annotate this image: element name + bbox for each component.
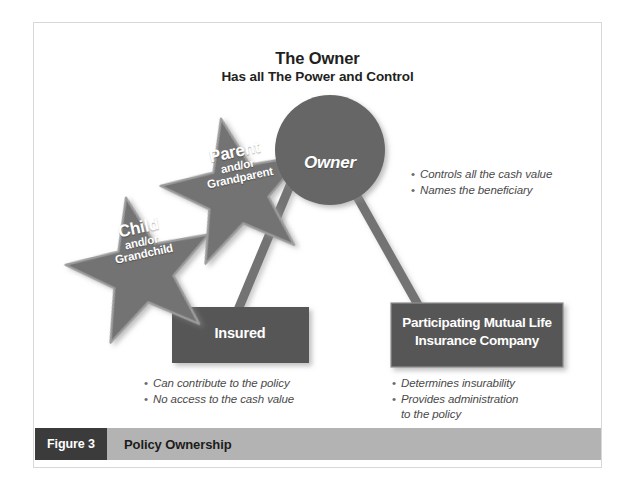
bullet-dot-icon: • — [144, 376, 153, 392]
bullet-dot-icon: • — [392, 376, 401, 392]
owner-bullet-2: Names the beneficiary — [420, 183, 601, 199]
list-item: • Determines insurability — [392, 376, 592, 392]
bullet-dot-icon: • — [411, 183, 420, 199]
owner-bullet-list: • Controls all the cash value • Names th… — [411, 167, 601, 198]
figure-caption-title: Policy Ownership — [107, 428, 601, 460]
company-bullet-2: Provides administration — [401, 392, 592, 408]
bullet-dot-icon: • — [392, 392, 401, 408]
connector-owner-to-company — [354, 191, 426, 319]
bullet-dot-icon: • — [144, 392, 153, 408]
figure-number-badge: Figure 3 — [35, 428, 107, 460]
figure-page: The Owner Has all The Power and Control — [0, 0, 620, 490]
list-item: • Provides administration — [392, 392, 592, 408]
company-bullet-1: Determines insurability — [401, 376, 592, 392]
insured-bullet-1: Can contribute to the policy — [153, 376, 354, 392]
list-item: • Can contribute to the policy — [144, 376, 354, 392]
owner-circle-shape — [275, 95, 385, 205]
owner-bullet-1: Controls all the cash value — [420, 167, 601, 183]
bullet-dot-icon: • — [411, 167, 420, 183]
company-box — [391, 303, 563, 367]
list-item: • Controls all the cash value — [411, 167, 601, 183]
company-bullet-list: • Determines insurability • Provides adm… — [392, 376, 592, 423]
diagram-canvas — [34, 23, 603, 423]
figure-caption-bar: Figure 3 Policy Ownership — [35, 428, 601, 460]
figure-frame: The Owner Has all The Power and Control — [33, 22, 602, 468]
list-item: to the policy — [392, 407, 592, 423]
insured-bullet-list: • Can contribute to the policy • No acce… — [144, 376, 354, 407]
insured-bullet-2: No access to the cash value — [153, 392, 354, 408]
list-item: • Names the beneficiary — [411, 183, 601, 199]
policy-ownership-diagram: Child and/or Grandchild Parent and/or Gr… — [34, 23, 603, 423]
company-bullet-2-continued: to the policy — [401, 407, 592, 423]
bullet-dot-spacer — [392, 407, 401, 423]
list-item: • No access to the cash value — [144, 392, 354, 408]
